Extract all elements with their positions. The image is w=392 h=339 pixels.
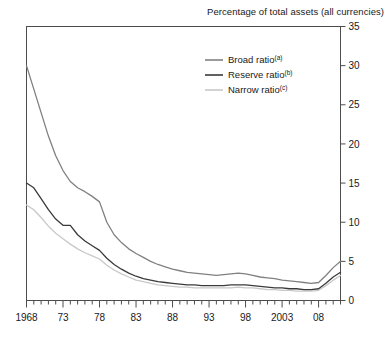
- y-axis-tick-label: 15: [349, 178, 361, 189]
- x-axis-tick-label: 78: [94, 312, 106, 323]
- chart-plot: 051015202530351968737883889398200308Broa…: [0, 0, 392, 339]
- legend-footnote-marker: (a): [274, 54, 282, 62]
- x-axis-tick-label: 93: [203, 312, 215, 323]
- legend-label-reserve-ratio: Reserve ratio(b): [228, 69, 292, 80]
- y-axis-tick-label: 35: [349, 21, 361, 32]
- y-axis-tick-label: 30: [349, 60, 361, 71]
- chart-container: Percentage of total assets (all currenci…: [0, 0, 392, 339]
- legend-footnote-marker: (b): [285, 69, 293, 77]
- series-line-reserve-ratio: [27, 183, 341, 289]
- x-axis-tick-label: 1968: [15, 312, 38, 323]
- x-axis-tick-label: 08: [313, 312, 325, 323]
- y-axis-tick-label: 25: [349, 99, 361, 110]
- legend-label-narrow-ratio: Narrow ratio(c): [228, 84, 287, 95]
- x-axis-tick-label: 98: [240, 312, 252, 323]
- legend-footnote-marker: (c): [280, 84, 288, 92]
- x-axis-tick-label: 73: [57, 312, 69, 323]
- y-axis-tick-label: 0: [349, 295, 355, 306]
- x-axis-tick-label: 88: [167, 312, 179, 323]
- series-line-broad-ratio: [27, 66, 341, 284]
- y-axis-tick-label: 5: [349, 256, 355, 267]
- x-axis-tick-label: 2003: [271, 312, 294, 323]
- y-axis-tick-label: 20: [349, 139, 361, 150]
- series-line-narrow-ratio: [27, 205, 341, 291]
- y-axis-tick-label: 10: [349, 217, 361, 228]
- legend-label-broad-ratio: Broad ratio(a): [228, 54, 282, 65]
- plot-frame: [27, 27, 341, 301]
- x-axis-tick-label: 83: [130, 312, 142, 323]
